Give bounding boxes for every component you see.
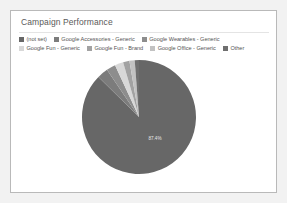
legend-item-label: Google Accessories - Generic xyxy=(61,35,134,43)
legend-item-label: Google Fun - Generic xyxy=(27,44,80,52)
slice-percentage-label: 87.4% xyxy=(148,136,161,141)
legend-item[interactable]: Google Fun - Brand xyxy=(87,44,143,52)
legend-item[interactable]: Google Office - Generic xyxy=(150,44,216,52)
legend-item-label: Other xyxy=(230,44,244,52)
legend-item[interactable]: Other xyxy=(223,44,244,52)
page-title: Campaign Performance xyxy=(21,17,113,27)
legend-item[interactable]: (not set) xyxy=(19,35,47,43)
legend-swatch-icon xyxy=(223,46,228,51)
legend-item-label: Google Office - Generic xyxy=(158,44,216,52)
pie-slice[interactable] xyxy=(115,62,139,117)
legend-item-label: Google Wearables - Generic xyxy=(149,35,219,43)
pie-slices xyxy=(82,60,196,174)
pie-slice[interactable] xyxy=(129,60,139,117)
legend-swatch-icon xyxy=(142,37,147,42)
chart-card: Campaign Performance (not set)Google Acc… xyxy=(10,10,277,193)
pie-slice[interactable] xyxy=(98,70,139,117)
pie-chart: 87.4% xyxy=(79,57,199,177)
legend-swatch-icon xyxy=(54,37,59,42)
pie-slice[interactable] xyxy=(135,60,139,117)
pie-slice[interactable] xyxy=(82,60,196,174)
legend-item[interactable]: Google Accessories - Generic xyxy=(54,35,135,43)
legend-swatch-icon xyxy=(150,46,155,51)
screenshot-root: Campaign Performance (not set)Google Acc… xyxy=(0,0,287,203)
pie-slice[interactable] xyxy=(107,65,139,117)
legend-swatch-icon xyxy=(19,46,24,51)
title-divider xyxy=(19,32,269,33)
legend-item[interactable]: Google Fun - Generic xyxy=(19,44,80,52)
legend-item-label: Google Fun - Brand xyxy=(94,44,143,52)
legend-swatch-icon xyxy=(19,37,24,42)
chart-legend: (not set)Google Accessories - GenericGoo… xyxy=(19,35,271,52)
pie-slice[interactable] xyxy=(123,61,139,117)
legend-swatch-icon xyxy=(87,46,92,51)
legend-item[interactable]: Google Wearables - Generic xyxy=(142,35,220,43)
legend-item-label: (not set) xyxy=(27,35,47,43)
